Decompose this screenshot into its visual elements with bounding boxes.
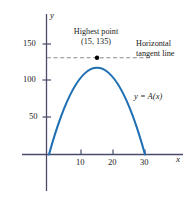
tangent-text-line1: Horizontal [136, 39, 174, 49]
parabola-curve [49, 68, 145, 155]
x-axis-label: x [176, 155, 180, 165]
x-tick-label-10: 10 [76, 158, 85, 168]
highest-point-annotation: Highest point (15, 135) [60, 27, 132, 47]
y-axis-label: y [50, 11, 54, 21]
graph-figure: 150 100 50 10 20 30 y x Highest point (1… [0, 0, 190, 200]
x-tick-label-30: 30 [140, 158, 149, 168]
horizontal-tangent-annotation: Horizontal tangent line [136, 39, 174, 59]
peak-point-marker [95, 56, 99, 60]
tangent-text-line2: tangent line [136, 49, 174, 59]
highest-point-coords: (15, 135) [60, 37, 132, 47]
highest-point-text: Highest point [60, 27, 132, 37]
y-tick-label-150: 150 [23, 39, 36, 49]
y-tick-label-50: 50 [29, 112, 38, 122]
y-tick-label-100: 100 [23, 75, 36, 85]
curve-equation-label: y = A(x) [134, 92, 162, 102]
x-tick-label-20: 20 [108, 158, 117, 168]
